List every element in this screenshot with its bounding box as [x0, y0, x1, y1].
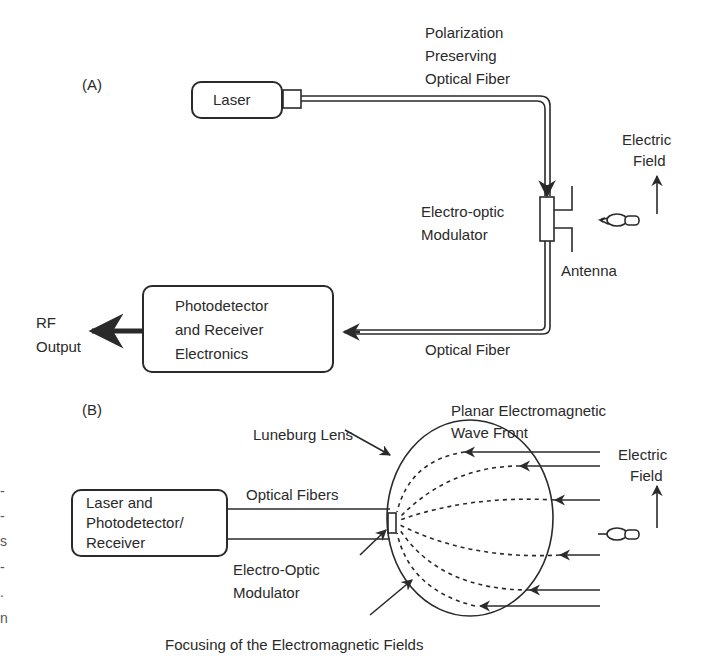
transceiver-label-2: Photodetector/: [86, 513, 184, 532]
rf-output-label-1: RF: [36, 314, 56, 332]
modulator-label-a-1: Electro-optic: [421, 203, 504, 221]
clipped-fragment: -: [0, 508, 5, 524]
wavefront-label-2: Wave Front: [451, 424, 528, 442]
focusing-label: Focusing of the Electromagnetic Fields: [165, 636, 423, 654]
laser-label: Laser: [213, 90, 251, 109]
polarization-fiber-label-2: Preserving: [425, 47, 497, 65]
receiver-label-3: Electronics: [175, 344, 248, 363]
modulator-label-b-2: Modulator: [233, 584, 300, 602]
modulator-label-b-1: Electro-Optic: [233, 561, 320, 579]
receiver-label-2: and Receiver: [175, 320, 263, 339]
polarization-fiber-label-3: Optical Fiber: [425, 70, 510, 88]
wavefront-label-1: Planar Electromagnetic: [451, 402, 606, 420]
transceiver-box: Laser and Photodetector/ Receiver: [71, 489, 228, 557]
clipped-fragment: .: [0, 584, 4, 600]
electric-field-a-2: Field: [633, 152, 666, 170]
polarization-fiber-label-1: Polarization: [425, 24, 503, 42]
optical-fiber-label: Optical Fiber: [425, 341, 510, 359]
transceiver-label-1: Laser and: [86, 493, 153, 512]
electric-field-a-1: Electric: [622, 131, 671, 149]
clipped-fragment: -: [0, 483, 5, 499]
antenna-label: Antenna: [561, 262, 617, 280]
receiver-label-1: Photodetector: [175, 296, 268, 315]
rf-output-label-2: Output: [36, 338, 81, 356]
panel-a-label: (A): [82, 76, 102, 94]
electric-field-b-2: Field: [630, 467, 663, 485]
receiver-box: Photodetector and Receiver Electronics: [142, 285, 334, 373]
laser-box: Laser: [191, 81, 283, 119]
electric-field-b-1: Electric: [618, 446, 667, 464]
panel-b-label: (B): [82, 401, 102, 419]
optical-fibers-label: Optical Fibers: [246, 486, 339, 504]
clipped-fragment: -: [0, 559, 5, 575]
modulator-label-a-2: Modulator: [421, 226, 488, 244]
diagram-lines: [0, 0, 709, 670]
clipped-fragment: s: [0, 533, 7, 549]
luneburg-lens-label: Luneburg Lens: [253, 426, 353, 444]
clipped-fragment: n: [0, 610, 8, 626]
transceiver-label-3: Receiver: [86, 533, 145, 552]
